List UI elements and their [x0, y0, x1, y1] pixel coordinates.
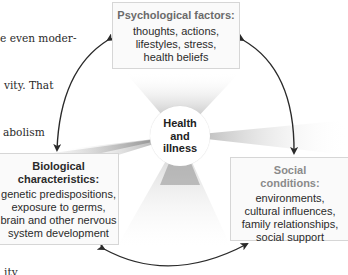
- psychological-item: thoughts, actions,: [113, 25, 239, 38]
- social-item: social support: [231, 231, 348, 244]
- center-line1: Health: [163, 117, 197, 130]
- biological-title-line1: Biological: [0, 160, 118, 173]
- social-item: environments,: [231, 192, 348, 205]
- center-line2: and: [163, 130, 197, 143]
- biological-characteristics-box: Biological characteristics: genetic pred…: [0, 153, 119, 245]
- psychological-item: health beliefs: [113, 51, 239, 64]
- social-title-line1: Social: [231, 164, 348, 177]
- social-conditions-box: Social conditions: environments, cultura…: [230, 157, 348, 241]
- biological-item: genetic predispositions,: [0, 188, 118, 201]
- center-line3: illness: [163, 142, 197, 155]
- social-item: family relationships,: [231, 218, 348, 231]
- social-title-line2: conditions:: [231, 177, 348, 190]
- biological-item: exposure to germs,: [0, 201, 118, 214]
- arrow-psych-bio: [57, 40, 108, 150]
- biological-title-line2: characteristics:: [0, 173, 118, 186]
- health-and-illness-circle: Health and illness: [150, 106, 210, 166]
- biological-item: brain and other nervous: [0, 214, 118, 227]
- psychological-item: lifestyles, stress,: [113, 38, 239, 51]
- arrow-bio-social: [104, 244, 247, 266]
- biological-item: system development: [0, 227, 118, 240]
- psychological-title: Psychological factors:: [113, 9, 239, 22]
- psychological-factors-box: Psychological factors: thoughts, actions…: [112, 2, 240, 69]
- social-item: cultural influences,: [231, 205, 348, 218]
